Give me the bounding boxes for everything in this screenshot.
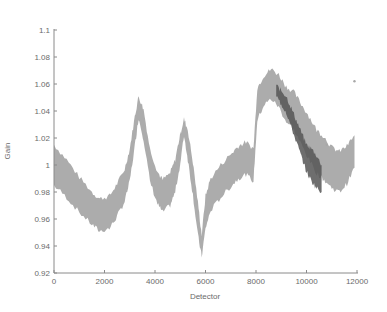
x-tick-label: 0 [52, 277, 57, 286]
x-axis-ticks: 020004000600080001000012000 [52, 270, 369, 286]
gain-vs-detector-chart: 0.920.940.960.9811.021.041.061.081.1 020… [0, 0, 387, 312]
y-tick-label: 1.08 [34, 53, 50, 62]
x-tick-label: 8000 [247, 277, 265, 286]
outlier-points [326, 80, 356, 146]
y-tick-label: 1.04 [34, 107, 50, 116]
x-tick-label: 12000 [346, 277, 369, 286]
x-tick-label: 2000 [96, 277, 114, 286]
x-tick-label: 4000 [146, 277, 164, 286]
x-tick-label: 6000 [197, 277, 215, 286]
y-tick-label: 0.94 [34, 242, 50, 251]
x-tick-label: 10000 [295, 277, 318, 286]
outlier-point [326, 144, 328, 146]
y-tick-label: 0.92 [34, 269, 50, 278]
x-axis-label: Detector [190, 292, 221, 301]
y-tick-label: 1.02 [34, 134, 50, 143]
y-tick-label: 0.98 [34, 188, 50, 197]
y-tick-label: 1.06 [34, 80, 50, 89]
y-tick-label: 1.1 [39, 26, 51, 35]
y-axis-label: Gain [3, 143, 12, 160]
outlier-point [353, 80, 355, 82]
y-tick-label: 1 [46, 161, 51, 170]
data-bands [54, 69, 355, 258]
y-tick-label: 0.96 [34, 215, 50, 224]
